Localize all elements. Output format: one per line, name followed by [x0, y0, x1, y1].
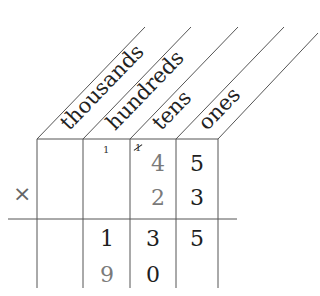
partial1-ones-digit: 5 [185, 228, 209, 250]
grid-lines [0, 0, 320, 296]
multiplication-diagram: thousands hundreds tens ones × 1 1 4 5 2… [0, 0, 320, 296]
partial1-tens-digit: 3 [141, 228, 165, 250]
multiplicand-tens-digit: 4 [146, 153, 170, 175]
multiplier-tens-digit: 2 [146, 187, 170, 209]
carry-tens-crossed-out: 1 [135, 143, 141, 153]
partial2-tens-digit: 0 [141, 264, 165, 286]
diagonal-line-4 [176, 27, 284, 139]
multiplier-ones-digit: 3 [185, 187, 209, 209]
multiply-operator: × [13, 183, 31, 205]
partial1-hundreds-digit: 1 [95, 228, 119, 250]
diagonal-line-5 [218, 33, 318, 139]
partial2-hundreds-digit: 9 [95, 264, 119, 286]
multiplicand-ones-digit: 5 [185, 153, 209, 175]
carry-hundreds: 1 [103, 145, 109, 155]
